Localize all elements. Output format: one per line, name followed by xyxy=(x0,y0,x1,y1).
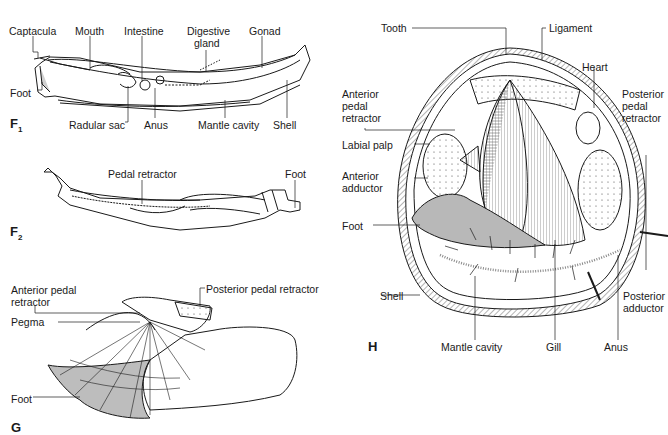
label-anterior-adductor-line1: Anterior xyxy=(342,170,379,182)
figure-letter-h: H xyxy=(368,340,377,354)
figure-letter-g: G xyxy=(11,421,21,435)
label-anterior-pedal-retractor-line2: retractor xyxy=(11,296,50,308)
label-pegma: Pegma xyxy=(11,316,44,328)
label-captacula: Captacula xyxy=(9,25,56,37)
label-foot: Foot xyxy=(10,87,31,99)
label-mantle-cavity: Mantle cavity xyxy=(198,119,259,131)
label-shell: Shell xyxy=(380,290,403,302)
figure-letter-f1: F1 xyxy=(10,117,22,137)
label-posterior-pedal-retractor-line3: retractor xyxy=(622,112,661,124)
label-posterior-adductor-line2: adductor xyxy=(623,302,664,314)
label-radular-sac: Radular sac xyxy=(69,119,125,131)
label-anus: Anus xyxy=(144,119,168,131)
figure-letter-f2: F2 xyxy=(10,225,22,245)
label-foot: Foot xyxy=(285,168,306,180)
label-anterior-pedal-retractor-line2: pedal xyxy=(342,100,368,112)
label-mantle-cavity: Mantle cavity xyxy=(441,341,502,353)
label-anterior-pedal-retractor-line3: retractor xyxy=(342,112,381,124)
label-posterior-pedal-retractor-line2: pedal xyxy=(622,100,648,112)
label-tooth: Tooth xyxy=(381,22,407,34)
anatomy-illustration xyxy=(0,0,668,435)
figure-f1-drawing xyxy=(34,45,310,111)
label-pedal-retractor: Pedal retractor xyxy=(108,168,177,180)
label-mouth: Mouth xyxy=(75,25,104,37)
label-foot: Foot xyxy=(11,393,32,405)
label-shell: Shell xyxy=(273,119,296,131)
label-digestive-gland-line1: Digestive xyxy=(187,25,230,37)
label-posterior-adductor-line1: Posterior xyxy=(623,290,665,302)
label-intestine: Intestine xyxy=(124,25,164,37)
label-gonad: Gonad xyxy=(249,25,281,37)
label-foot: Foot xyxy=(342,220,363,232)
label-posterior-pedal-retractor-line1: Posterior xyxy=(622,88,664,100)
label-labial-palp: Labial palp xyxy=(342,139,393,151)
label-anterior-pedal-retractor-line1: Anterior xyxy=(342,88,379,100)
label-ligament: Ligament xyxy=(549,22,592,34)
label-posterior-pedal-retractor: Posterior pedal retractor xyxy=(206,283,319,295)
figure-g-drawing xyxy=(48,297,297,418)
label-anterior-pedal-retractor-line1: Anterior pedal xyxy=(11,284,76,296)
label-gill: Gill xyxy=(546,341,561,353)
label-digestive-gland-line2: gland xyxy=(194,37,220,49)
label-heart: Heart xyxy=(582,61,608,73)
label-anus: Anus xyxy=(604,341,628,353)
label-anterior-adductor-line2: adductor xyxy=(342,182,383,194)
